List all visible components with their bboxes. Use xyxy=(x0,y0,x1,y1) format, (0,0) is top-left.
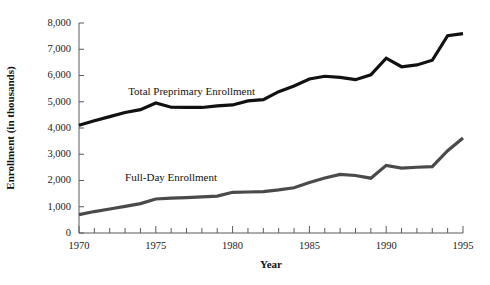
y-tick-label: 5,000 xyxy=(47,96,71,107)
chart-series-group xyxy=(79,34,463,215)
series-line-0 xyxy=(79,34,463,126)
x-tick-label: 1970 xyxy=(69,240,90,251)
y-tick-label: 7,000 xyxy=(47,43,71,54)
x-tick-label: 1985 xyxy=(299,240,320,251)
x-tick-label: 1975 xyxy=(145,240,166,251)
x-axis-tick-labels: 197019751980198519901995 xyxy=(69,240,474,251)
y-axis-tick-labels: 01,0002,0003,0004,0005,0006,0007,0008,00… xyxy=(47,17,71,238)
series-annotation-group: Total Preprimary EnrollmentFull-Day Enro… xyxy=(125,85,255,182)
y-axis-ticks xyxy=(79,23,84,233)
y-tick-label: 3,000 xyxy=(47,148,71,159)
series-label-1: Full-Day Enrollment xyxy=(125,171,217,183)
x-axis-title: Year xyxy=(260,258,282,270)
y-tick-label: 4,000 xyxy=(47,122,71,133)
y-tick-label: 2,000 xyxy=(47,174,71,185)
y-tick-label: 8,000 xyxy=(47,17,71,28)
x-tick-label: 1990 xyxy=(376,240,397,251)
chart-axes xyxy=(79,23,463,233)
series-label-0: Total Preprimary Enrollment xyxy=(128,85,255,97)
chart-figure: 01,0002,0003,0004,0005,0006,0007,0008,00… xyxy=(0,0,490,285)
y-axis-title: Enrollment (in thousands) xyxy=(4,66,17,190)
x-tick-label: 1995 xyxy=(453,240,474,251)
x-tick-label: 1980 xyxy=(222,240,243,251)
y-tick-label: 1,000 xyxy=(47,201,71,212)
y-tick-label: 0 xyxy=(66,227,71,238)
enrollment-line-chart: 01,0002,0003,0004,0005,0006,0007,0008,00… xyxy=(0,0,490,285)
y-tick-label: 6,000 xyxy=(47,69,71,80)
x-axis-ticks xyxy=(79,226,463,233)
